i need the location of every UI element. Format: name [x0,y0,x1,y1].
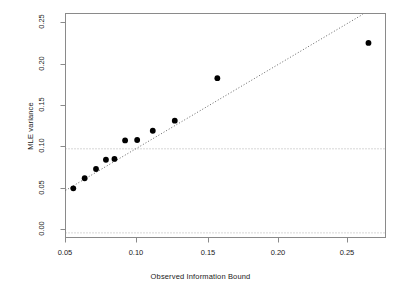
y-axis-tick-marks [61,23,66,230]
data-point [150,128,156,134]
x-axis-tick-marks [66,238,348,243]
scatter-plot-figure: 0.050.100.150.200.25 0.000.050.100.150.2… [0,0,401,296]
y-tick-label: 0.20 [37,49,46,79]
data-point [366,40,372,46]
data-point [134,137,140,143]
x-tick-label: 0.20 [263,248,293,257]
data-point [172,118,178,124]
y-tick-label: 0.25 [37,7,46,37]
data-point [112,156,118,162]
y-tick-label: 0.00 [37,214,46,244]
x-tick-label: 0.25 [332,248,362,257]
data-point-series [70,40,371,191]
data-point [122,138,128,144]
identity-reference-line [66,14,363,190]
y-tick-label: 0.05 [37,173,46,203]
y-axis-title: MLE variance [26,102,35,150]
x-axis-title: Observed Information Bound [0,272,401,281]
data-point [93,166,99,172]
y-tick-label: 0.10 [37,131,46,161]
y-tick-label: 0.15 [37,90,46,120]
data-point [214,75,220,81]
y-axis-title-wrapper: MLE variance [19,36,37,216]
x-tick-label: 0.15 [193,248,223,257]
data-point [103,157,109,163]
data-point [70,185,76,191]
data-point [82,175,88,181]
plot-frame-box [66,14,386,238]
identity-line [66,14,363,190]
x-tick-label: 0.10 [121,248,151,257]
x-tick-label: 0.05 [50,248,80,257]
